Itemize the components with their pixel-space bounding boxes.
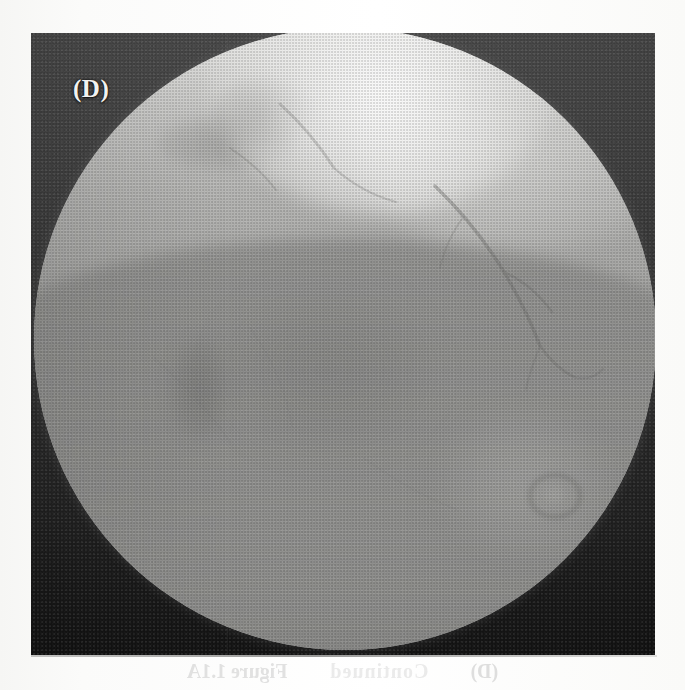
scan-seam-left	[227, 33, 228, 655]
panel-baseline-shadow	[31, 655, 657, 657]
bleedthrough-fragment-middle: Continued	[329, 660, 428, 683]
panel-label: (D)	[73, 75, 109, 103]
scan-seam-center	[403, 33, 404, 655]
circular-field-of-view	[34, 33, 655, 650]
bleedthrough-caption: (D) Continued Figure 1.1A	[0, 658, 685, 684]
mid-left-opacity-blob	[171, 339, 227, 439]
radiograph-panel: (D)	[31, 33, 655, 655]
lower-right-bright-blob	[445, 414, 607, 551]
figure-panel-d: (D) (D) Continued Figure 1.1A	[0, 0, 685, 690]
bleedthrough-fragment-left: Figure 1.1A	[187, 660, 288, 683]
radiopaque-ring-marker-core	[543, 485, 567, 505]
central-soft-tissue-shadow	[221, 289, 432, 451]
bleedthrough-fragment-right: (D)	[471, 660, 499, 683]
